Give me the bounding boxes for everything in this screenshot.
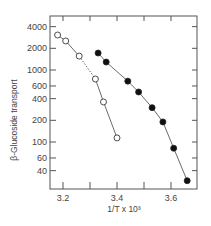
filled-data-point [136,89,142,95]
y-tick-label: 600 [32,81,47,91]
data-series [55,32,191,184]
y-tick-label: 40 [37,166,47,176]
filled-data-point [125,78,131,84]
filled-data-point [171,145,177,151]
arrhenius-plot: 3.23.43.6 4000200010006004002001006040 1… [0,0,211,226]
plot-frame [50,16,197,189]
x-tick-label: 3.2 [57,193,70,203]
x-tick-label: 3.4 [111,193,124,203]
x-axis-title: 1/T x 10³ [107,204,141,214]
y-tick-label: 2000 [27,43,47,53]
y-tick-label: 1000 [27,65,47,75]
open-data-point [101,99,107,105]
filled-data-point [184,178,190,184]
filled-data-point [103,59,109,65]
y-tick-label: 4000 [27,22,47,32]
filled-data-point [149,105,155,111]
y-axis: 4000200010006004002001006040 [27,22,197,176]
y-tick-label: 200 [32,115,47,125]
filled-data-point [160,119,166,125]
open-data-point [55,32,61,38]
y-tick-label: 100 [32,137,47,147]
open-data-point [114,135,120,141]
open-data-point [92,76,98,82]
x-tick-label: 3.6 [165,193,178,203]
y-tick-label: 60 [37,153,47,163]
open-data-point [76,53,82,59]
x-axis: 3.23.43.6 [57,16,178,203]
filled-data-point [95,50,101,56]
y-tick-label: 400 [32,94,47,104]
open-data-point [63,38,69,44]
y-axis-title: β-Glucoside transport [9,79,19,161]
